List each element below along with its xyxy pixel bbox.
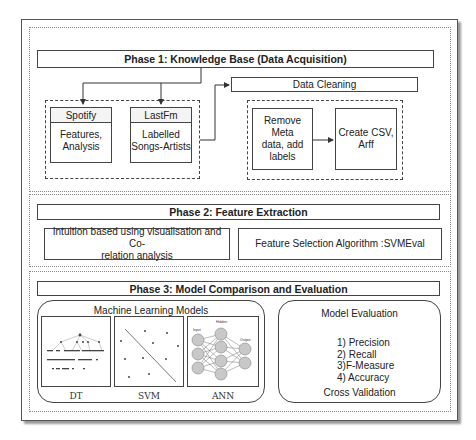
- model-evaluation-title: Model Evaluation: [279, 307, 440, 319]
- step-text: Create CSV, Arff: [338, 127, 393, 151]
- data-cleaning-title: Data Cleaning: [231, 77, 418, 92]
- svm-label: SVM: [114, 390, 184, 401]
- method-svmeval: Feature Selection Algorithm :SVMEval: [238, 228, 442, 260]
- method-line: relation analysis: [45, 250, 229, 262]
- method-intuition: Intuition based using visualisation and …: [44, 228, 230, 260]
- dt-label: DT: [41, 390, 111, 401]
- source-lastfm: LastFm Labelled Songs-Artists: [130, 107, 192, 163]
- method-line: Feature Selection Algorithm :SVMEval: [255, 238, 425, 250]
- step-line: Create CSV,: [338, 127, 393, 139]
- metric-item: 2) Recall: [337, 349, 437, 361]
- phase3-title: Phase 3: Model Comparison and Evaluation: [37, 281, 440, 296]
- cleaning-step-create-csv: Create CSV, Arff: [335, 108, 397, 170]
- method-text: Feature Selection Algorithm :SVMEval: [255, 238, 425, 250]
- phase2-title: Phase 2: Feature Extraction: [37, 204, 440, 220]
- source-line: Features,: [51, 129, 111, 141]
- source-body: Labelled Songs-Artists: [131, 129, 191, 153]
- source-body: Features, Analysis: [51, 129, 111, 153]
- cleaning-step-remove-meta: Remove Meta data, add labels: [252, 108, 313, 170]
- cross-validation-label: Cross Validation: [279, 386, 440, 398]
- metric-item: 3)F-Measure: [337, 360, 437, 372]
- metric-item: 4) Accuracy: [337, 372, 437, 384]
- method-text: Intuition based using visualisation and …: [45, 226, 229, 262]
- svg-text:Hidden: Hidden: [216, 320, 227, 324]
- svm-scatter-icon: [115, 317, 183, 386]
- source-line: Songs-Artists: [131, 141, 191, 153]
- source-line: Labelled: [131, 129, 191, 141]
- method-line: Intuition based using visualisation and …: [45, 226, 229, 250]
- ann-label: ANN: [187, 390, 259, 401]
- dt-image: [41, 316, 111, 387]
- step-line: Arff: [338, 139, 393, 151]
- source-line: Analysis: [51, 141, 111, 153]
- svg-text:Input: Input: [193, 328, 201, 332]
- svg-text:Output: Output: [240, 338, 251, 342]
- step-text: Remove Meta data, add labels: [253, 115, 312, 163]
- metrics-list: 1) Precision 2) Recall 3)F-Measure 4) Ac…: [337, 337, 437, 383]
- source-header: LastFm: [131, 108, 191, 123]
- step-line: labels: [253, 151, 312, 163]
- source-spotify: Spotify Features, Analysis: [50, 107, 112, 163]
- svm-image: [114, 316, 184, 387]
- neural-network-icon: Input Hidden Output: [188, 317, 258, 386]
- ml-models-title: Machine Learning Models: [38, 304, 264, 316]
- model-evaluation-group: Model Evaluation 1) Precision 2) Recall …: [278, 300, 441, 403]
- step-line: Remove Meta: [253, 115, 312, 139]
- phase1-title: Phase 1: Knowledge Base (Data Acquisitio…: [37, 50, 434, 68]
- source-header: Spotify: [51, 108, 111, 123]
- step-line: data, add: [253, 139, 312, 151]
- metric-item: 1) Precision: [337, 337, 437, 349]
- decision-tree-icon: [42, 317, 110, 386]
- ann-image: Input Hidden Output: [187, 316, 259, 387]
